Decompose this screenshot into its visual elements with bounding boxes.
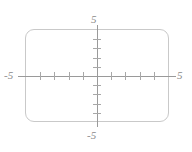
y-tick xyxy=(93,85,101,86)
x-tick xyxy=(40,72,41,80)
x-tick xyxy=(154,72,155,80)
y-tick xyxy=(93,113,101,114)
x-tick xyxy=(69,72,70,80)
y-tick xyxy=(93,104,101,105)
y-axis-min-label: -5 xyxy=(87,130,96,141)
x-tick xyxy=(140,72,141,80)
y-axis-line xyxy=(97,25,98,127)
x-tick xyxy=(83,72,84,80)
graph-figure: 5 -5 -5 5 xyxy=(0,0,192,152)
x-tick xyxy=(111,72,112,80)
x-tick xyxy=(125,72,126,80)
y-tick xyxy=(93,58,101,59)
x-tick xyxy=(54,72,55,80)
y-tick xyxy=(93,48,101,49)
x-axis-max-label: 5 xyxy=(177,70,183,81)
y-tick xyxy=(93,39,101,40)
y-axis-max-label: 5 xyxy=(91,14,97,25)
x-axis-min-label: -5 xyxy=(4,70,13,81)
y-tick xyxy=(93,67,101,68)
y-tick xyxy=(93,94,101,95)
